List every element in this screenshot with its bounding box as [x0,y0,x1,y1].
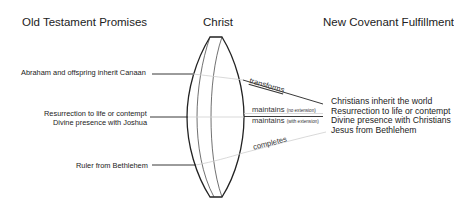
header-new-covenant: New Covenant Fulfillment [323,16,454,28]
ot-promise-canaan: Abraham and offspring inherit Canaan [21,68,146,77]
relation-maintains-with-extension: maintains (with extension) [252,116,319,125]
left-connectors [150,74,196,165]
ot-promise-bethlehem: Ruler from Bethlehem [76,161,148,170]
header-old-testament: Old Testament Promises [22,16,147,28]
relation-maintains-no-extension: maintains (no extension) [252,105,316,114]
ot-promise-presence: Divine presence with Joshua [53,118,147,127]
ot-promise-resurrection: Resurrection to life or contempt [44,109,147,118]
lens-pass-through-lines [188,74,244,165]
new-covenant-list: Christians inherit the world Resurrectio… [331,97,451,135]
header-christ: Christ [203,16,233,28]
nc-fulfillment-bethlehem: Jesus from Bethlehem [331,126,451,136]
